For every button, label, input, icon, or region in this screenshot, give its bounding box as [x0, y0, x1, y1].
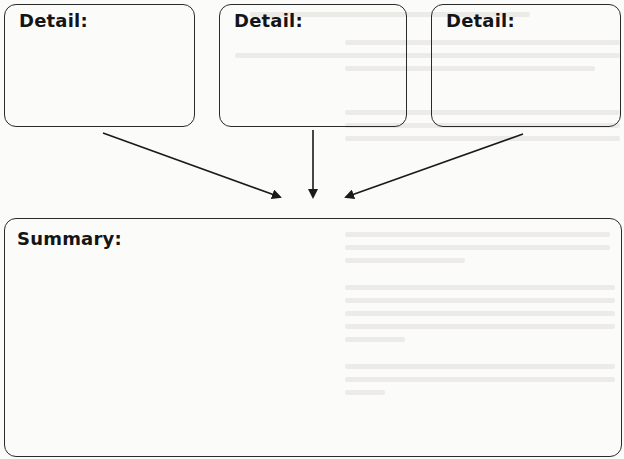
arrow-left: [103, 133, 280, 197]
arrow-right: [346, 134, 523, 197]
summary-label: Summary:: [17, 228, 122, 249]
summary-box[interactable]: Summary:: [4, 218, 622, 457]
